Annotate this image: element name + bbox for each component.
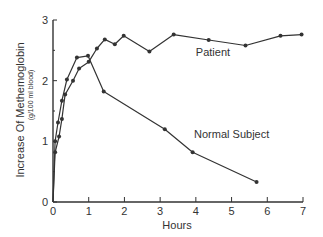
data-point [56,121,60,125]
data-point [102,90,106,94]
data-point [147,50,151,54]
data-point [60,117,64,121]
data-point [75,56,79,60]
series-normal-subject: Normal Subject [53,54,269,202]
axes: 012301234567 [42,14,306,217]
series-label-patient: Patient [196,46,230,58]
data-point [191,150,195,154]
series-patient: Patient [53,33,304,202]
data-point [244,43,248,47]
data-point [77,67,81,71]
data-point [60,99,64,103]
data-point [65,77,69,81]
y-axis-sublabel: (g/100 ml blood) [27,70,35,121]
data-point [103,37,107,41]
x-tick-label: 7 [300,205,306,217]
y-tick-label: 1 [42,135,48,147]
labels-group: Hours Increase Of Methemoglobin (g/100 m… [14,42,192,231]
y-tick-label: 2 [42,75,48,87]
data-point [207,38,211,42]
data-point [279,34,283,38]
data-point [122,34,126,38]
x-tick-label: 3 [157,205,163,217]
y-axis-label: Increase Of Methemoglobin [14,42,26,177]
x-tick-label: 6 [264,205,270,217]
data-point [113,42,117,46]
data-point [71,79,75,83]
series-group: PatientNormal Subject [53,33,304,202]
x-tick-label: 4 [193,205,199,217]
data-point [86,54,90,58]
methemoglobin-line-chart: 012301234567 PatientNormal Subject Hours… [0,0,323,237]
x-tick-label: 2 [121,205,127,217]
data-point [53,139,57,143]
data-point [57,134,61,138]
series-label-normal-subject: Normal Subject [194,128,269,140]
x-tick-label: 0 [50,205,56,217]
x-axis-label: Hours [162,219,192,231]
y-tick-label: 3 [42,14,48,26]
x-tick-label: 5 [229,205,235,217]
data-point [300,33,304,37]
data-point [255,180,259,184]
data-point [163,127,167,131]
data-point [172,33,176,37]
data-point [95,47,99,51]
x-tick-label: 1 [86,205,92,217]
y-tick-label: 0 [42,196,48,208]
